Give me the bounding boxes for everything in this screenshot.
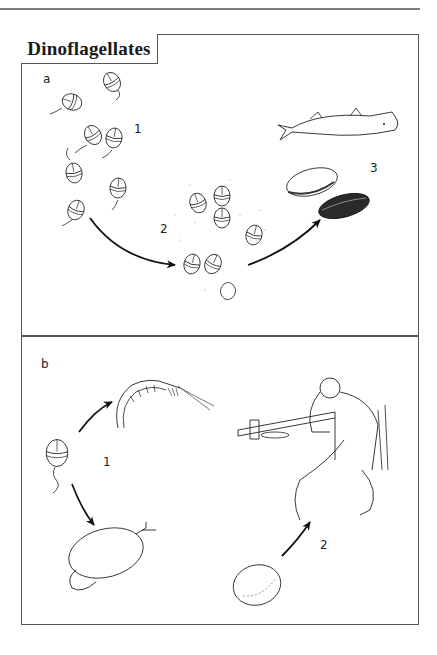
shellfish-meal-drawing	[229, 559, 286, 610]
panel-a-step-2-number: 2	[160, 222, 168, 236]
mussel-drawing	[316, 189, 372, 224]
shrimp-drawing	[117, 380, 214, 428]
filter-feeding-clam-drawing	[63, 520, 156, 590]
illustration-canvas	[0, 0, 437, 655]
arrow-b-to-clam	[72, 484, 94, 525]
sick-man-at-table-drawing	[238, 378, 388, 520]
panel-b-label: b	[41, 357, 49, 371]
panel-a-label: a	[43, 72, 50, 86]
fish-drawing	[278, 108, 398, 140]
panel-a-bloom-group	[174, 179, 265, 300]
panel-b-step-1-number: 1	[103, 455, 111, 469]
arrow-b-to-shrimp	[79, 402, 112, 432]
panel-a-step-1-number: 1	[134, 122, 142, 136]
clam-drawing	[284, 163, 341, 202]
arrow-b-clam-to-man	[282, 522, 310, 556]
panel-a-dinoflagellates-group	[50, 69, 127, 226]
panel-b-step-2-number: 2	[320, 538, 328, 552]
panel-b-dinoflagellate	[46, 440, 68, 494]
panel-a-step-3-number: 3	[370, 161, 378, 175]
